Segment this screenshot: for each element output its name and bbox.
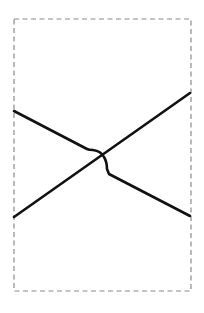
diagram-canvas [0,0,204,313]
ascending-line [14,93,190,217]
descending-line-with-jump [14,111,190,216]
